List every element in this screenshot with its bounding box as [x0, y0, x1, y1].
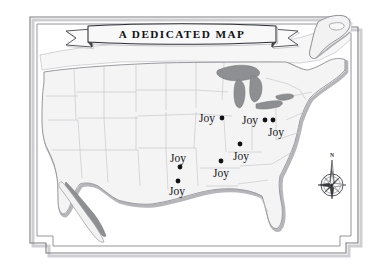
us-landmass	[42, 59, 345, 229]
lake-michigan	[234, 80, 245, 108]
maritime-inlet	[329, 23, 344, 30]
joy-marker-dot[interactable]	[219, 159, 224, 164]
joy-marker-label: Joy	[199, 112, 215, 125]
banner-title-text: A DEDICATED MAP	[119, 28, 246, 40]
joy-marker-label: Joy	[169, 185, 185, 198]
map-figure: A DEDICATED MAP Joy Joy Joy Joy Joy	[0, 0, 390, 270]
map-body	[40, 15, 352, 242]
compass-center-hub	[331, 184, 333, 186]
joy-marker-label: Joy	[268, 126, 284, 139]
joy-marker-label: Joy	[242, 114, 258, 127]
joy-marker-dot[interactable]	[220, 116, 225, 121]
compass-north-label: N	[330, 152, 334, 158]
title-banner: A DEDICATED MAP	[66, 24, 299, 49]
joy-marker-dot[interactable]	[176, 179, 181, 184]
joy-marker-label: Joy	[170, 152, 186, 165]
joy-marker-dot[interactable]	[271, 118, 276, 123]
compass-rose: N	[318, 152, 346, 199]
joy-marker-dot[interactable]	[263, 118, 268, 123]
joy-marker-label: Joy	[233, 150, 249, 163]
map-canvas: A DEDICATED MAP Joy Joy Joy Joy Joy	[0, 0, 390, 270]
joy-marker-dot[interactable]	[238, 142, 243, 147]
joy-marker-label: Joy	[213, 167, 229, 180]
joy-marker-dot[interactable]	[178, 165, 183, 170]
